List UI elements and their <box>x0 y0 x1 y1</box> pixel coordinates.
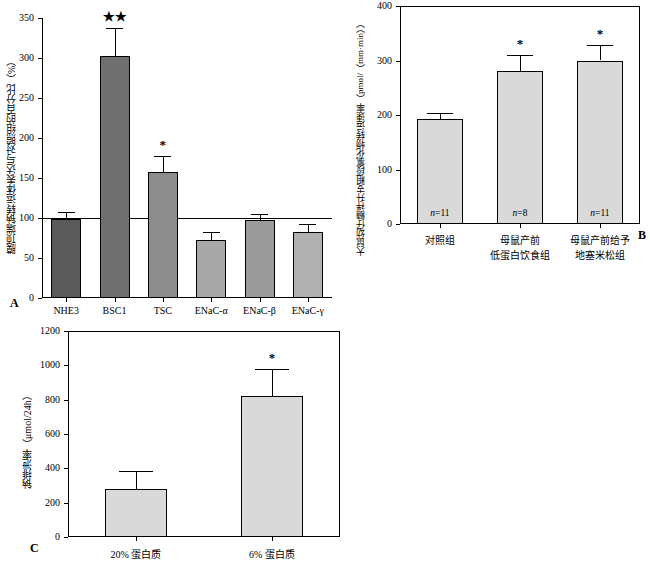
y-tick-mark <box>64 400 68 401</box>
error-bar-cap <box>587 45 613 46</box>
panel-b-chart: 大鼠幼仔髓袢升支粗段氯化物转运速率（pmol/（mm·min）） 0100200… <box>352 0 650 300</box>
bar <box>241 396 303 537</box>
y-tick-mark <box>64 468 68 469</box>
x-tick-mark <box>520 224 521 228</box>
bar <box>245 220 275 298</box>
y-tick-mark <box>38 258 42 259</box>
x-category-label: 6% 蛋白质 <box>192 546 352 561</box>
error-bar <box>272 369 273 396</box>
error-bar-cap <box>251 214 268 215</box>
bar <box>51 219 81 298</box>
significance-marker: * <box>575 27 625 40</box>
y-tick-mark <box>396 115 400 116</box>
error-bar-cap <box>255 369 290 370</box>
significance-marker: * <box>495 37 545 50</box>
y-tick-mark <box>64 365 68 366</box>
panel-letter: C <box>30 541 39 556</box>
panel-letter: B <box>638 228 646 243</box>
y-tick-mark <box>64 331 68 332</box>
y-tick-mark <box>396 6 400 7</box>
panel-a-plot-area <box>42 18 332 298</box>
error-bar <box>600 45 601 60</box>
y-tick-label: 800 <box>24 394 60 405</box>
bar <box>105 489 167 537</box>
y-tick-mark <box>38 298 42 299</box>
y-tick-label: 200 <box>24 497 60 508</box>
error-bar-cap <box>299 224 316 225</box>
bar <box>497 71 543 224</box>
y-tick-label: 300 <box>356 55 392 66</box>
bar <box>196 240 226 298</box>
error-bar-cap <box>154 156 171 157</box>
panel-c-y-axis-label: 钠排泄率（μmol/24h） <box>22 365 36 515</box>
reference-line <box>42 218 332 219</box>
x-tick-mark <box>136 537 137 541</box>
y-tick-label: 100 <box>0 212 34 223</box>
y-tick-mark <box>64 434 68 435</box>
error-bar <box>211 232 212 240</box>
error-bar <box>136 471 137 489</box>
y-tick-mark <box>38 18 42 19</box>
error-bar-cap <box>119 471 154 472</box>
y-tick-mark <box>396 224 400 225</box>
x-category-label: ENaC-γ <box>272 305 344 316</box>
y-tick-mark <box>38 98 42 99</box>
y-tick-mark <box>64 537 68 538</box>
sample-size-label: n=11 <box>570 208 630 218</box>
significance-marker: * <box>138 138 188 151</box>
y-tick-label: 400 <box>356 0 392 11</box>
x-tick-mark <box>308 298 309 302</box>
x-tick-mark <box>115 298 116 302</box>
error-bar-cap <box>106 28 123 29</box>
y-tick-label: 100 <box>356 164 392 175</box>
y-tick-label: 250 <box>0 92 34 103</box>
y-tick-label: 350 <box>0 12 34 23</box>
x-tick-mark <box>600 224 601 228</box>
y-tick-label: 50 <box>0 252 34 263</box>
y-tick-mark <box>396 170 400 171</box>
y-tick-label: 300 <box>0 52 34 63</box>
y-tick-label: 200 <box>356 109 392 120</box>
panel-c-chart: 钠排泄率（μmol/24h） 02004006008001000120020% … <box>20 325 360 578</box>
sample-size-label: n=8 <box>490 208 550 218</box>
error-bar <box>520 55 521 71</box>
x-tick-mark <box>211 298 212 302</box>
error-bar <box>163 156 164 172</box>
bar <box>293 232 323 298</box>
significance-marker: ★★ <box>90 10 140 23</box>
y-tick-label: 150 <box>0 172 34 183</box>
x-tick-mark <box>260 298 261 302</box>
y-tick-label: 400 <box>24 462 60 473</box>
bar <box>577 61 623 225</box>
y-tick-label: 600 <box>24 428 60 439</box>
panel-a-chart: 膜顶端钠转运体表达与对照组的百分比（%） 0501001502002503003… <box>0 0 350 320</box>
error-bar <box>66 212 67 219</box>
x-category-label: 母鼠产前给予地塞米松组 <box>548 232 650 262</box>
y-tick-label: 1200 <box>24 325 60 336</box>
error-bar <box>115 28 116 56</box>
x-tick-mark <box>66 298 67 302</box>
error-bar <box>308 224 309 232</box>
sample-size-label: n=11 <box>410 208 470 218</box>
bar <box>148 172 178 298</box>
x-tick-mark <box>163 298 164 302</box>
y-tick-mark <box>64 503 68 504</box>
y-tick-mark <box>38 178 42 179</box>
panel-letter: A <box>10 296 19 311</box>
error-bar-cap <box>507 55 533 56</box>
y-tick-label: 0 <box>356 218 392 229</box>
error-bar-cap <box>58 212 75 213</box>
significance-marker: * <box>247 351 297 364</box>
x-tick-mark <box>440 224 441 228</box>
y-tick-mark <box>396 61 400 62</box>
y-tick-mark <box>38 58 42 59</box>
bar <box>100 56 130 298</box>
y-tick-mark <box>38 138 42 139</box>
x-tick-mark <box>272 537 273 541</box>
y-tick-label: 200 <box>0 132 34 143</box>
error-bar-cap <box>203 232 220 233</box>
y-tick-label: 1000 <box>24 359 60 370</box>
error-bar-cap <box>427 113 453 114</box>
